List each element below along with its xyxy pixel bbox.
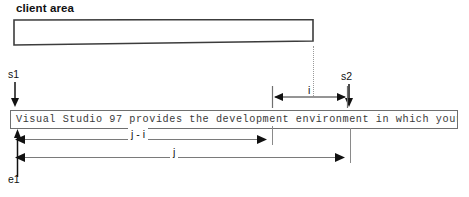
dimension-i-glyph [271,86,351,108]
marker-label-e1: e1 [8,173,20,185]
diagram-canvas: client area s1 s2 i Visual [0,0,469,197]
s1-arrow-glyph [10,82,21,108]
client-area-label: client area [16,2,74,14]
text-strip-content: Visual Studio 97 provides the developmen… [16,114,458,125]
client-area-box-outline [13,19,314,46]
j-minus-i-end-tick [272,126,273,145]
dimension-i-arrow [271,86,351,112]
marker-label-s2: s2 [341,70,352,82]
client-area-box [13,19,314,46]
client-area-box-path [14,20,313,46]
dimension-label-j: j [170,146,178,158]
text-strip-box: Visual Studio 97 provides the developmen… [10,110,458,129]
dimension-j-arrow [15,149,346,167]
j-end-tick [350,128,351,163]
dimension-j-glyph [15,152,346,163]
dimension-label-i: i [308,84,310,96]
marker-label-s1: s1 [8,68,19,80]
dimension-label-j-minus-i: j - i [128,128,148,140]
s1-down-arrow [10,82,21,112]
